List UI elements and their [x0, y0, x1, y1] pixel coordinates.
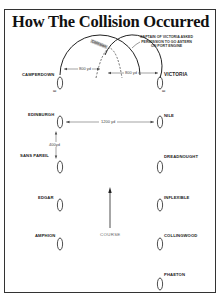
label-camperdown: CAMPERDOWN: [22, 72, 54, 77]
note-leader: [132, 42, 140, 48]
label-edgar: EDGAR: [38, 195, 54, 200]
course-label: COURSE: [100, 232, 121, 237]
label-dreadnought: DREADNOUGHT: [164, 154, 198, 159]
ship-camperdown: [57, 77, 62, 89]
label-collingwood: COLLINGWOOD: [164, 233, 197, 238]
captain-note-line-1: CAPTAIN OF VICTORIA ASKED: [140, 35, 193, 40]
label-amphion: AMPHION: [35, 233, 55, 238]
svg-text:ш: ш: [162, 88, 165, 93]
captain-note: CAPTAIN OF VICTORIA ASKED PERMISSION TO …: [140, 35, 193, 49]
ship-amphion: [57, 238, 62, 250]
ship-sans-pareil: [57, 161, 62, 173]
distance-between-ships: 400yd: [49, 142, 60, 147]
ship-nile: [157, 116, 162, 128]
label-edinburgh: EDINBURGH: [28, 112, 54, 117]
dashed-arc: [96, 48, 122, 78]
distance-camperdown-turn: 800 yd: [78, 66, 92, 71]
ship-collingwood: [157, 238, 162, 250]
ship-edgar: [57, 199, 62, 211]
captain-note-line-3: ON PORT ENGINE: [140, 44, 193, 49]
distance-victoria-turn: 800 yd: [124, 70, 138, 75]
ship-dreadnought: [157, 161, 162, 173]
ship-edinburgh: [57, 116, 62, 128]
label-victoria: VICTORIA: [164, 72, 188, 77]
label-phaeton: PHAETON: [164, 272, 185, 277]
label-nile: NILE: [164, 113, 174, 118]
distance-between-columns: 1200 yd: [99, 119, 117, 124]
ship-inflexible: [157, 199, 162, 211]
ship-phaeton: [157, 278, 162, 290]
label-sans-pareil: SANS PAREIL: [20, 153, 49, 158]
svg-text:ш: ш: [53, 88, 56, 93]
label-inflexible: INFLEXIBLE: [164, 195, 189, 200]
